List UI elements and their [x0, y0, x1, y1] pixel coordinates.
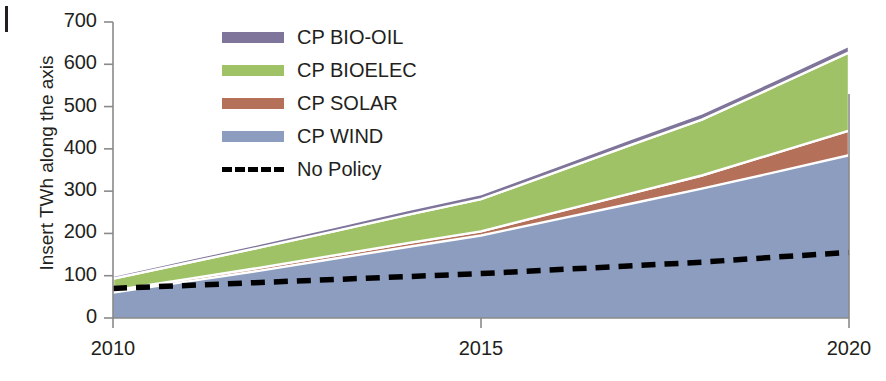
plot-area	[0, 0, 886, 381]
legend-color-swatch-icon	[222, 98, 284, 109]
legend-item-label: CP WIND	[297, 126, 383, 146]
x-axis-tick-label: 2010	[53, 337, 173, 360]
y-axis-tick-label: 600	[11, 51, 97, 74]
legend-item-cp-bio-oil[interactable]: CP BIO-OIL	[222, 26, 403, 48]
legend-item-label: No Policy	[297, 159, 381, 179]
legend-item-cp-solar[interactable]: CP SOLAR	[222, 92, 398, 114]
legend-color-swatch-icon	[222, 32, 284, 43]
y-axis-tick-label: 0	[11, 305, 97, 328]
y-axis-tick-label: 200	[11, 220, 97, 243]
y-axis-tick-label: 400	[11, 136, 97, 159]
y-axis-ticks	[104, 22, 113, 318]
y-axis-tick-label: 300	[11, 178, 97, 201]
x-axis-tick-label: 2020	[789, 337, 886, 360]
legend-color-swatch-icon	[222, 131, 284, 142]
area-series-group	[113, 46, 849, 318]
legend-dashed-line-icon	[222, 167, 284, 172]
y-axis-tick-label: 700	[11, 9, 97, 32]
page-edge-marker	[5, 6, 8, 32]
stacked-area-chart: Insert TWh along the axis 01002003004005…	[0, 0, 886, 381]
legend-item-cp-wind[interactable]: CP WIND	[222, 125, 383, 147]
legend-item-label: CP SOLAR	[297, 93, 398, 113]
legend-item-no-policy[interactable]: No Policy	[222, 158, 381, 180]
y-axis-tick-label: 500	[11, 94, 97, 117]
y-axis-tick-label: 100	[11, 263, 97, 286]
x-axis-ticks	[113, 318, 849, 328]
legend-item-cp-bioelec[interactable]: CP BIOELEC	[222, 59, 417, 81]
x-axis-tick-label: 2015	[421, 337, 541, 360]
legend-color-swatch-icon	[222, 65, 284, 76]
legend-item-label: CP BIO-OIL	[297, 27, 403, 47]
legend-item-label: CP BIOELEC	[297, 60, 417, 80]
